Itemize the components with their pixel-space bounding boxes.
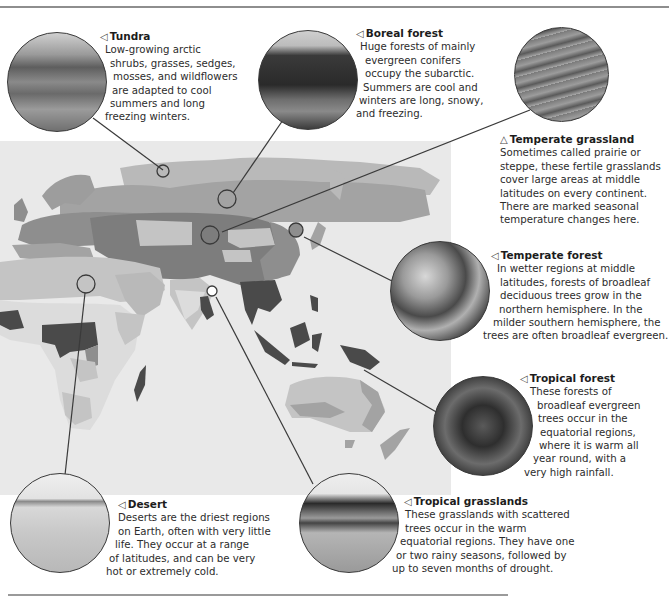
text-line: In wetter regions at middle: [483, 262, 668, 275]
text-line: milder southern hemisphere, the: [483, 316, 668, 329]
region-sulawesi: [312, 333, 322, 352]
text-line: occupy the subarctic.: [356, 67, 483, 80]
text-line: winters are long, snowy,: [356, 94, 483, 107]
pointer-left-icon: ◁: [404, 496, 412, 507]
text-line: life. They occur at a range: [106, 538, 271, 551]
text-line: very high rainfall.: [520, 466, 641, 479]
photo-temperate-forest: [390, 241, 490, 341]
bottom-rule: [8, 594, 508, 596]
text-line: trees occur in the: [520, 412, 641, 425]
leader-line-temperate-forest: [304, 237, 396, 283]
photo-tropical-grasslands: [299, 473, 399, 573]
text-line: and freezing.: [356, 107, 483, 120]
text-line: or two rainy seasons, followed by: [392, 549, 574, 562]
pointer-left-icon: ◁: [356, 28, 364, 39]
text-line: These grasslands with scattered: [392, 508, 574, 521]
text-line: broadleaf evergreen: [520, 399, 641, 412]
region-java: [292, 362, 318, 368]
pointer-left-icon: ◁: [520, 373, 528, 384]
title-boreal-forest: Boreal forest: [366, 27, 443, 39]
region-tropical-forest-indochina: [240, 280, 282, 325]
region-new-zealand: [380, 428, 410, 460]
caption-tundra: ◁Tundra Low-growing arctic shrubs, grass…: [100, 30, 237, 124]
leader-line-tundra: [93, 118, 163, 170]
caption-tropical-forest: ◁Tropical forest These forests of broadl…: [520, 372, 641, 479]
photo-temperate-grassland: [514, 27, 609, 122]
marker-tropical-grasslands: [207, 286, 217, 296]
text-line: year round, with a: [520, 452, 641, 465]
title-temperate-grassland: Temperate grassland: [510, 133, 634, 145]
caption-boreal-forest: ◁Boreal forest Huge forests of mainly ev…: [356, 27, 483, 121]
photo-boreal-forest: [258, 30, 358, 130]
text-line: hot or extremely cold.: [106, 565, 271, 578]
text-line: shrubs, grasses, sedges,: [100, 57, 237, 70]
pointer-left-icon: ◁: [491, 250, 499, 261]
title-temperate-forest: Temperate forest: [501, 249, 603, 261]
text-line: where it is warm all: [520, 439, 641, 452]
text-line: Deserts are the driest regions: [106, 511, 271, 524]
region-sri-lanka: [200, 296, 214, 320]
text-line: Huge forests of mainly: [356, 40, 483, 53]
region-japan: [310, 222, 326, 250]
text-line: latitudes on every continent.: [500, 187, 661, 200]
region-desert-gobi: [228, 228, 275, 248]
region-philippines: [310, 295, 318, 312]
photo-tundra: [7, 32, 107, 132]
pointer-left-icon: ◁: [100, 31, 108, 42]
text-line: equatorial regions. They have one: [392, 535, 574, 548]
text-line: are adapted to cool: [100, 84, 237, 97]
region-desert-central-asia: [136, 220, 192, 246]
text-line: equatorial regions,: [520, 426, 641, 439]
caption-tropical-grasslands: ◁Tropical grasslands These grasslands wi…: [392, 495, 574, 575]
text-line: mosses, and wildflowers: [100, 70, 237, 83]
text-line: on Earth, often with very little: [106, 525, 271, 538]
caption-temperate-grassland: △Temperate grassland Sometimes called pr…: [500, 133, 661, 227]
text-line: temperature changes here.: [500, 213, 661, 226]
text-line: trees are often broadleaf evergreen.: [483, 329, 668, 342]
caption-temperate-forest: ◁Temperate forest In wetter regions at m…: [483, 249, 668, 343]
text-line: Summers are cool and: [356, 81, 483, 94]
marker-temperate-forest: [289, 223, 303, 237]
title-tundra: Tundra: [110, 30, 151, 42]
text-line: steppe, these fertile grasslands: [500, 160, 661, 173]
text-line: northern hemisphere. In the: [483, 303, 668, 316]
text-line: cover large areas at middle: [500, 173, 661, 186]
region-desert-taklamakan: [222, 250, 252, 262]
marker-temperate-grassland: [201, 226, 219, 244]
region-borneo: [290, 322, 310, 348]
marker-desert: [77, 275, 95, 293]
text-line: evergreen conifers: [356, 54, 483, 67]
photo-tropical-forest: [433, 376, 533, 476]
region-new-guinea: [340, 345, 380, 370]
text-line: Low-growing arctic: [100, 43, 237, 56]
text-line: freezing winters.: [100, 110, 237, 123]
region-madagascar: [134, 365, 146, 402]
title-tropical-grasslands: Tropical grasslands: [414, 495, 528, 507]
text-line: latitudes, forests of broadleaf: [483, 276, 668, 289]
title-tropical-forest: Tropical forest: [530, 372, 615, 384]
title-desert: Desert: [128, 498, 167, 510]
marker-boreal: [218, 190, 236, 208]
pointer-up-icon: △: [500, 134, 508, 145]
text-line: trees occur in the warm: [392, 522, 574, 535]
text-line: These forests of: [520, 385, 641, 398]
pointer-left-icon: ◁: [118, 499, 126, 510]
text-line: summers and long: [100, 97, 237, 110]
region-sumatra: [254, 330, 290, 365]
region-tasmania: [345, 440, 355, 448]
text-line: There are marked seasonal: [500, 200, 661, 213]
text-line: of latitudes, and can be very: [106, 552, 271, 565]
text-line: deciduous trees grow in the: [483, 289, 668, 302]
photo-desert: [10, 473, 110, 573]
text-line: up to seven months of drought.: [392, 562, 574, 575]
caption-desert: ◁Desert Deserts are the driest regions o…: [106, 498, 271, 578]
region-uk: [14, 198, 28, 222]
text-line: Sometimes called prairie or: [500, 146, 661, 159]
